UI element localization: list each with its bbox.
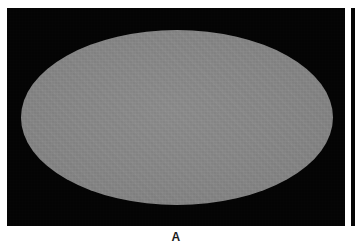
panel-b-image-clipped	[351, 8, 355, 226]
panel-a-caption: A	[7, 230, 345, 244]
figure-root: A	[0, 0, 357, 250]
ellipse-region-shape	[21, 30, 333, 205]
panel-a-image	[7, 8, 345, 226]
